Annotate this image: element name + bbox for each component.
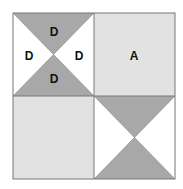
- label-tr: A: [130, 49, 139, 63]
- quadrant-bottom-left: [13, 96, 94, 179]
- quilt-diagram: D D D D A: [0, 0, 183, 189]
- label-tl-bottom: D: [50, 72, 59, 86]
- quadrant-bottom-right: [94, 96, 175, 179]
- label-tl-right: D: [75, 49, 84, 63]
- label-tl-top: D: [50, 25, 59, 39]
- label-tl-left: D: [25, 49, 34, 63]
